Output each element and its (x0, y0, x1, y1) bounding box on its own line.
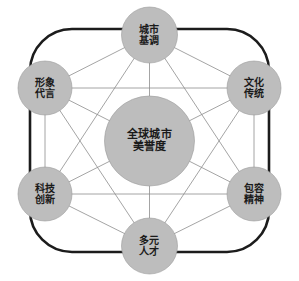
node-upper-right-circle[interactable] (227, 61, 281, 115)
node-bottom-circle[interactable] (122, 218, 178, 274)
center-node-circle[interactable] (105, 96, 195, 186)
node-lower-left-circle[interactable] (18, 167, 72, 221)
node-top-circle[interactable] (122, 7, 178, 63)
node-lower-right-circle[interactable] (227, 167, 281, 221)
node-circles (18, 7, 281, 274)
diagram-graphics (0, 0, 299, 281)
node-upper-left-circle[interactable] (18, 61, 72, 115)
diagram-canvas: 城市基调文化传统包容精神多元人才科技创新形象代言全球城市美誉度 (0, 0, 299, 281)
